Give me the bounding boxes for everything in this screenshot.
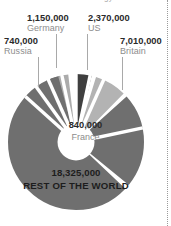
right-edge-dotted-rule	[167, 0, 168, 226]
center-label-france: 840,000 France	[0, 120, 171, 142]
callout-britain-country: Britain	[120, 47, 162, 57]
callout-russia: 740,000 Russia	[4, 36, 38, 56]
center-label-country: France	[0, 132, 171, 142]
leader-line-britain	[122, 57, 123, 90]
callout-germany-country: Germany	[27, 24, 69, 34]
pie-chart-graphic	[0, 0, 171, 226]
center-label-value: 840,000	[0, 120, 171, 131]
rest-of-world-name: REST OF THE WORLD	[0, 180, 152, 192]
callout-germany-value: 1,150,000	[27, 13, 69, 23]
callout-russia-value: 740,000	[4, 36, 38, 46]
leader-line-germany	[56, 34, 57, 68]
rest-of-world-value: 18,325,000	[0, 167, 152, 179]
callout-britain-value: 7,010,000	[120, 36, 162, 46]
callout-us-value: 2,370,000	[88, 13, 130, 23]
rest-of-world-label: 18,325,000 REST OF THE WORLD	[0, 167, 152, 191]
leader-line-us	[87, 34, 88, 70]
infographic-donut-chart: gy	[0, 0, 171, 226]
callout-us: 2,370,000 US	[88, 13, 130, 33]
leader-line-russia	[38, 57, 39, 87]
callout-russia-country: Russia	[4, 47, 38, 57]
callout-us-country: US	[88, 24, 130, 34]
callout-britain: 7,010,000 Britain	[120, 36, 162, 56]
callout-germany: 1,150,000 Germany	[27, 13, 69, 33]
